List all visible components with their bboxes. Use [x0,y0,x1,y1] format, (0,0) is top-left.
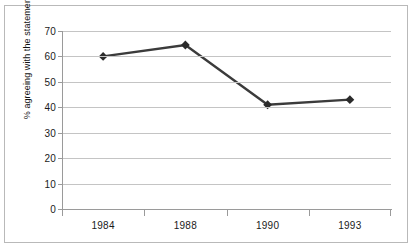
x-axis-tick-mark [227,209,228,216]
x-axis-tick-mark [144,209,145,216]
y-axis-tick-mark [58,31,62,32]
y-axis-tick-label: 40 [44,102,56,113]
chart-frame: 010203040506070 % agreeing with the stat… [4,5,408,243]
y-axis-tick-mark [58,107,62,108]
y-axis-tick-label: 30 [44,127,56,138]
plot-area [62,31,391,209]
y-axis-tick-label: 50 [44,76,56,87]
x-axis-tick-mark [390,209,391,216]
y-axis-line [62,31,63,210]
gridline [62,82,391,83]
gridline [62,133,391,134]
y-axis-tick-label: 10 [44,178,56,189]
y-axis-tick-mark [58,209,62,210]
x-axis-tick-label: 1990 [256,220,279,231]
y-axis-tick-label: 70 [44,26,56,37]
x-axis-tick-mark [309,209,310,216]
gridline [62,158,391,159]
y-axis-title: % agreeing with the statement. [22,0,32,141]
gridline [62,56,391,57]
y-axis-tick-mark [58,184,62,185]
x-axis-tick-label: 1988 [174,220,197,231]
line-series [62,31,391,209]
x-axis-tick-mark [62,209,63,216]
y-axis-tick-label: 20 [44,153,56,164]
y-axis-tick-mark [58,56,62,57]
x-axis-tick-label: 1984 [92,220,115,231]
series-line [103,45,350,105]
y-axis-tick-label: 0 [50,204,56,215]
gridline [62,107,391,108]
y-axis-tick-mark [58,133,62,134]
gridline [62,184,391,185]
y-axis-tick-mark [58,82,62,83]
x-axis: 1984198819901993 [62,209,392,243]
data-point-marker [345,95,354,104]
x-axis-tick-label: 1993 [338,220,361,231]
y-axis-tick-label: 60 [44,51,56,62]
gridline [62,31,391,32]
y-axis-tick-mark [58,158,62,159]
